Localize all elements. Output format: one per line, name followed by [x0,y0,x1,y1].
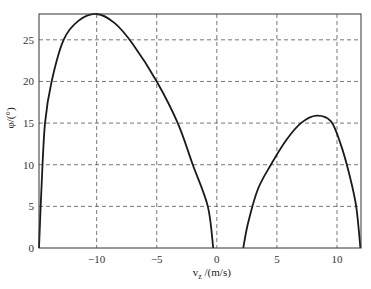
grid-lines [39,14,361,248]
y-tick-label: 5 [29,200,35,212]
x-tick-label: 10 [331,253,343,265]
y-tick-label: 25 [23,34,35,46]
x-tick-label: −10 [88,253,106,265]
x-axis-label: vz /(m/s) [193,266,231,281]
curve-branch-positive [243,116,360,248]
y-tick-label: 0 [29,242,35,254]
plot-frame [39,14,361,248]
x-tick-label: −5 [151,253,163,265]
x-tick-label: 5 [274,253,280,265]
y-tick-label: 10 [23,159,35,171]
x-tick-label: 0 [214,253,220,265]
chart: −10−50510 0510152025 vz /(m/s) φ/(°) [0,0,371,289]
curve-branch-negative [39,14,213,248]
data-curves [39,14,360,248]
y-tick-label: 20 [23,75,35,87]
y-tick-labels: 0510152025 [23,34,35,254]
x-tick-labels: −10−50510 [88,253,343,265]
y-axis-label: φ/(°) [4,107,17,128]
y-tick-label: 15 [23,117,35,129]
